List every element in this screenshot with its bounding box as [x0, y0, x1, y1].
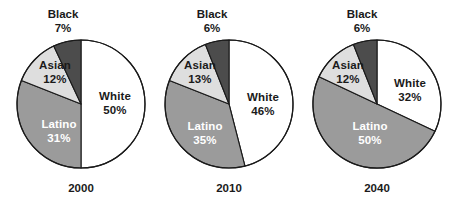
- pie-group-2040: [313, 40, 441, 168]
- pie-group-2000: [17, 40, 145, 168]
- pie-group-2010: [165, 40, 293, 168]
- pie-slices-canvas: [0, 0, 462, 202]
- pie-slice-2000-white: [81, 40, 145, 168]
- population-pie-chart-figure: Black 7% Asian 12% Latino 31% White 50% …: [0, 0, 462, 202]
